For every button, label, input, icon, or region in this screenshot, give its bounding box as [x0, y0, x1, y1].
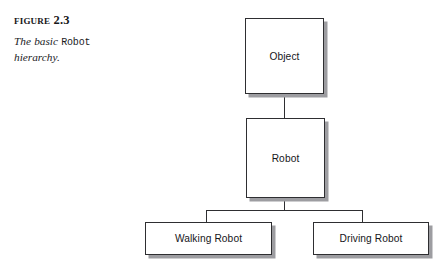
node-driving-robot-label: Driving Robot	[339, 233, 402, 244]
node-walking-robot[interactable]: Walking Robot	[145, 222, 272, 255]
node-robot[interactable]: Robot	[246, 118, 325, 198]
figure-page: Figure 2.3 The basic Robot hierarchy. Ob…	[0, 0, 445, 265]
node-walking-robot-label: Walking Robot	[175, 233, 242, 244]
node-object[interactable]: Object	[245, 18, 324, 94]
connector-robot-stem	[284, 197, 285, 211]
node-object-label: Object	[269, 51, 299, 62]
connector-branch-bar	[206, 210, 363, 211]
node-driving-robot[interactable]: Driving Robot	[313, 222, 429, 255]
hierarchy-diagram: Object Robot Walking Robot Driving Robot	[0, 0, 445, 265]
node-robot-label: Robot	[272, 153, 300, 164]
connector-object-to-robot	[284, 93, 285, 119]
